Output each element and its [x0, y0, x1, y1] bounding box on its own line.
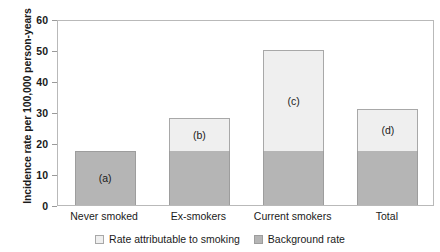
bar-segment-attributable[interactable]: (d): [357, 109, 418, 151]
y-axis-tick-label: 20: [36, 137, 48, 152]
bar-annotation: (d): [381, 124, 394, 136]
y-axis-tick-mark: [52, 206, 57, 207]
y-axis-title: Incidence rate per 100,000 person-years: [18, 0, 36, 212]
y-axis-tick-label: 0: [42, 199, 48, 214]
y-axis-title-text: Incidence rate per 100,000 person-years: [21, 8, 33, 204]
x-axis-label: Ex-smokers: [151, 210, 245, 222]
bar-annotation: (c): [288, 95, 300, 107]
bar-annotation: (b): [193, 129, 206, 141]
bar[interactable]: (d): [357, 109, 418, 205]
bar-annotation: (a): [99, 172, 112, 184]
bar-segment-attributable[interactable]: (b): [169, 118, 230, 151]
legend-item[interactable]: Rate attributable to smoking: [95, 233, 240, 245]
y-axis-tick-label: 60: [36, 13, 48, 28]
x-axis-label: Current smokers: [246, 210, 340, 222]
y-axis-tick-label: 10: [36, 168, 48, 183]
bar-segment-background[interactable]: [169, 151, 230, 205]
bar-segment-background[interactable]: (a): [75, 151, 136, 205]
legend-label: Rate attributable to smoking: [109, 233, 240, 245]
legend-swatch: [254, 235, 263, 244]
chart-legend: Rate attributable to smokingBackground r…: [0, 233, 440, 245]
bar-segment-attributable[interactable]: (c): [263, 50, 324, 151]
y-axis-tick-label: 30: [36, 106, 48, 121]
bar-chart-figure: Incidence rate per 100,000 person-years …: [0, 0, 440, 252]
legend-item[interactable]: Background rate: [254, 233, 345, 245]
legend-swatch: [95, 235, 104, 244]
bar[interactable]: (a): [75, 151, 136, 205]
legend-label: Background rate: [268, 233, 345, 245]
bar[interactable]: (b): [169, 118, 230, 205]
bar-segment-background[interactable]: [263, 151, 324, 205]
x-axis-label: Never smoked: [57, 210, 151, 222]
y-axis-tick-label: 40: [36, 75, 48, 90]
plot-area: (a)(b)(c)(d): [57, 20, 434, 206]
bar[interactable]: (c): [263, 50, 324, 205]
bar-segment-background[interactable]: [357, 151, 418, 205]
y-axis-tick-label: 50: [36, 44, 48, 59]
x-axis-label: Total: [340, 210, 434, 222]
